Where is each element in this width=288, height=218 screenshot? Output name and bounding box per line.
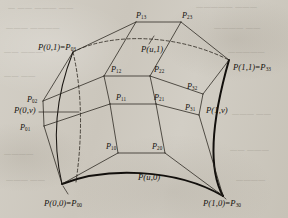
label-curve-P-0-v: P(0,v) — [14, 106, 36, 115]
label-control-point-p01: P01 — [20, 124, 30, 132]
control-point-subscript: 31 — [190, 106, 195, 112]
net-column-u1 — [104, 22, 136, 153]
label-control-point-p13: P13 — [136, 12, 146, 20]
control-point-subscript: 20 — [157, 145, 162, 151]
net-row-v1 — [44, 104, 199, 126]
label-control-point-p32: P32 — [187, 83, 197, 91]
label-corner-P11-eq-P33: P(1,1)=P33 — [233, 63, 271, 72]
control-point-subscript: 01 — [25, 126, 30, 132]
control-point-subscript: 02 — [32, 98, 37, 104]
control-point-subscript: 12 — [116, 68, 121, 74]
label-control-point-p21: P21 — [154, 94, 164, 102]
label-curve-P-u-1: P(u,1) — [141, 45, 163, 54]
control-point-subscript: 11 — [121, 96, 126, 102]
control-point-subscript: 22 — [159, 68, 164, 74]
control-point-subscript: 21 — [159, 96, 164, 102]
label-control-point-p31: P31 — [185, 104, 195, 112]
label-control-point-p23: P23 — [182, 12, 192, 20]
label-corner-P10-eq-P30: P(1,0)=P30 — [203, 199, 241, 208]
bezier-patch-drawing: .ln { fill:none; stroke:#26211b; stroke-… — [0, 0, 288, 218]
label-curve-P-1-v: P(1,v) — [206, 106, 228, 115]
figure-canvas: — —— ——— ——————— —————— ———————— ———— ——… — [0, 0, 288, 218]
control-point-subscript: 10 — [111, 145, 116, 151]
control-point-subscript: 13 — [141, 14, 146, 20]
label-control-point-p10: P10 — [106, 143, 116, 151]
label-curve-P-u-0: P(u,0) — [138, 173, 160, 182]
label-control-point-p20: P20 — [152, 143, 162, 151]
silhouette-left-curve — [56, 52, 73, 184]
label-corner-P01-eq-P03: P(0,1)=P03 — [38, 43, 76, 52]
label-control-point-p11: P11 — [116, 94, 126, 102]
leader-line-P-0-0 — [63, 186, 68, 194]
net-column-u2 — [150, 22, 181, 153]
label-control-point-p12: P12 — [111, 66, 121, 74]
label-control-point-p02: P02 — [27, 96, 37, 104]
label-control-point-p22: P22 — [154, 66, 164, 74]
control-point-subscript: 23 — [187, 14, 192, 20]
control-point-subscript: 32 — [192, 85, 197, 91]
label-corner-P00-eq-P00: P(0,0)=P00 — [44, 199, 82, 208]
boundary-curve-P-1-v — [213, 60, 229, 196]
hidden-curve-P-0-v — [73, 52, 81, 182]
leader-line-P-u-1 — [149, 36, 154, 44]
